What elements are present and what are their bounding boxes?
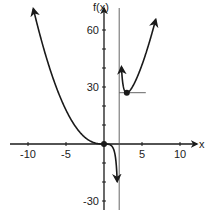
y-axis-label: f(x) [93,1,109,13]
x-tick-label: -10 [20,148,36,160]
y-tick-label: 60 [87,24,99,36]
data-point [124,90,130,96]
y-tick-label: 30 [87,81,99,93]
x-tick-label: 10 [174,148,186,160]
right-branch-curve [121,20,155,93]
y-tick-label: -30 [83,195,99,207]
x-axis-label: x [199,138,205,150]
x-tick-label: 5 [139,148,145,160]
function-graph: xf(x)-10-5510-303060 [0,0,206,216]
data-point [101,141,107,147]
x-tick-label: -5 [61,148,71,160]
